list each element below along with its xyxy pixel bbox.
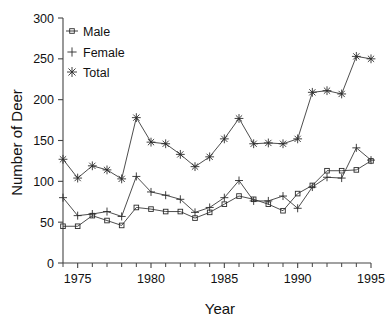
legend-label-female: Female: [83, 46, 125, 60]
legend-label-male: Male: [83, 25, 110, 39]
marker-asterisk: [147, 138, 156, 147]
y-tick-label-150: 150: [33, 134, 54, 148]
marker-asterisk: [59, 155, 68, 164]
x-tick-label-1995: 1995: [357, 272, 385, 286]
y-tick-label-0: 0: [47, 257, 54, 271]
marker-plus: [338, 174, 346, 182]
y-tick-label-50: 50: [40, 216, 54, 230]
y-tick-label-200: 200: [33, 93, 54, 107]
marker-asterisk: [73, 174, 82, 183]
marker-plus: [323, 173, 331, 181]
marker-asterisk: [293, 134, 302, 143]
y-tick-label-100: 100: [33, 175, 54, 189]
marker-asterisk: [308, 88, 317, 97]
marker-asterisk: [264, 139, 273, 148]
chart-canvas: 05010015020025030019751980198519901995Ye…: [0, 0, 392, 320]
x-tick-label-1985: 1985: [210, 272, 238, 286]
legend-item-total[interactable]: Total: [67, 66, 109, 80]
legend-marker-asterisk: [67, 67, 77, 77]
marker-asterisk: [323, 86, 332, 95]
marker-asterisk: [132, 113, 141, 122]
marker-asterisk: [220, 134, 229, 143]
y-tick-label-250: 250: [33, 52, 54, 66]
marker-asterisk: [161, 139, 170, 148]
marker-plus: [206, 203, 214, 211]
marker-asterisk: [279, 139, 288, 148]
legend-item-female[interactable]: Female: [67, 46, 124, 60]
marker-asterisk: [205, 152, 214, 161]
marker-asterisk: [117, 174, 126, 183]
marker-plus: [162, 191, 170, 199]
legend-label-total: Total: [83, 66, 109, 80]
marker-asterisk: [337, 90, 346, 99]
marker-asterisk: [88, 161, 97, 170]
marker-asterisk: [103, 166, 112, 175]
marker-plus: [103, 208, 111, 216]
y-axis-title: Number of Deer: [8, 89, 25, 196]
series-female: [59, 144, 375, 221]
marker-asterisk: [367, 54, 376, 63]
marker-asterisk: [235, 114, 244, 123]
marker-plus: [118, 212, 126, 220]
marker-asterisk: [191, 162, 200, 171]
deer-population-chart: 05010015020025030019751980198519901995Ye…: [0, 0, 392, 320]
marker-asterisk: [176, 150, 185, 159]
x-tick-label-1975: 1975: [64, 272, 92, 286]
x-tick-label-1990: 1990: [284, 272, 312, 286]
legend-marker-plus: [67, 47, 76, 56]
legend-item-male[interactable]: Male: [66, 25, 110, 39]
x-tick-label-1980: 1980: [137, 272, 165, 286]
series-line-female: [63, 148, 371, 217]
x-axis-title: Year: [205, 300, 235, 317]
marker-asterisk: [249, 139, 258, 148]
marker-asterisk: [352, 52, 361, 61]
marker-plus: [308, 183, 316, 191]
y-tick-label-300: 300: [33, 12, 54, 26]
marker-plus: [250, 197, 258, 205]
